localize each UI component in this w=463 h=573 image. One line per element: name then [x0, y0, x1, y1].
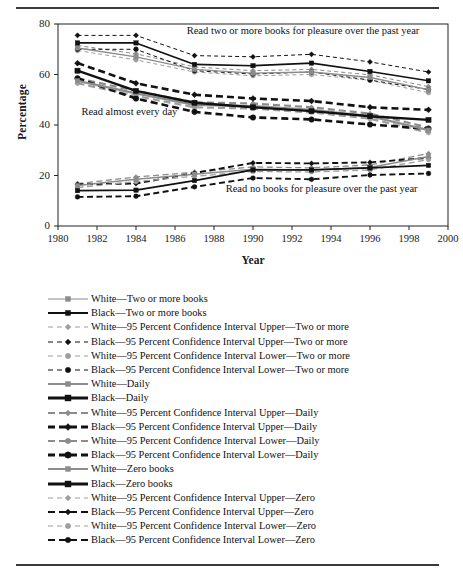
- data-point-circle: [65, 523, 70, 528]
- data-point-diamond: [192, 53, 197, 58]
- data-point-diamond: [65, 325, 71, 331]
- data-point-square: [250, 105, 255, 110]
- data-point-square: [66, 311, 71, 316]
- data-point-circle: [65, 538, 70, 543]
- legend-key-swatch: [45, 420, 91, 434]
- data-point-circle: [65, 438, 70, 443]
- data-point-diamond: [192, 92, 198, 98]
- plot-annotation-1: Read two or more books for pleasure over…: [187, 25, 420, 36]
- data-point-square: [251, 168, 255, 172]
- data-point-diamond: [426, 107, 432, 113]
- data-point-square: [251, 71, 255, 75]
- data-point-square: [65, 395, 71, 401]
- data-point-square: [368, 69, 372, 73]
- legend-item[interactable]: Black—Two or more books: [0, 306, 455, 320]
- legend-item[interactable]: Black—95 Percent Confidence Interval Low…: [0, 448, 455, 462]
- data-point-diamond: [75, 60, 81, 66]
- legend-item[interactable]: Black—95 Percent Confidence Interval Upp…: [0, 505, 455, 519]
- legend-item[interactable]: White—Two or more books: [0, 292, 455, 306]
- legend-item-label: White—95 Percent Confidence Interval Upp…: [91, 406, 318, 420]
- legend-item-label: White—95 Percent Confidence Interval Low…: [91, 519, 316, 533]
- legend-key-swatch: [45, 335, 91, 349]
- legend-item-label: Black—95 Percent Confidence Interval Low…: [91, 363, 349, 377]
- legend-item[interactable]: Black—Zero books: [0, 476, 455, 490]
- chart-legend: White—Two or more booksBlack—Two or more…: [0, 292, 455, 547]
- data-point-square: [309, 61, 313, 65]
- data-point-square: [426, 128, 430, 132]
- legend-item-label: Black—95 Percent Confidence Interval Upp…: [91, 335, 348, 349]
- data-point-diamond: [309, 52, 314, 57]
- legend-item[interactable]: Black—95 Percent Confidence Interval Low…: [0, 533, 455, 547]
- legend-item[interactable]: Black—95 Percent Confidence Interval Low…: [0, 363, 455, 377]
- data-point-circle: [65, 367, 70, 372]
- data-point-diamond: [367, 104, 373, 110]
- data-point-circle: [426, 171, 431, 176]
- data-point-circle: [367, 122, 373, 128]
- data-point-circle: [134, 194, 139, 199]
- data-point-diamond: [250, 54, 255, 59]
- legend-item[interactable]: Black—95 Percent Confidence Interval Upp…: [0, 335, 455, 349]
- legend-key-swatch: [45, 462, 91, 476]
- data-point-diamond: [367, 59, 372, 64]
- data-point-circle: [65, 452, 71, 458]
- data-point-square: [426, 117, 431, 122]
- data-point-square: [75, 183, 79, 187]
- legend-item-label: White—95 Percent Confidence Interval Upp…: [91, 320, 349, 334]
- data-point-square: [66, 297, 71, 302]
- legend-key-swatch: [45, 349, 91, 363]
- data-point-square: [309, 70, 313, 74]
- data-point-square: [309, 168, 313, 172]
- legend-item[interactable]: White—95 Percent Confidence Interval Upp…: [0, 491, 455, 505]
- legend-item[interactable]: White—Daily: [0, 377, 455, 391]
- legend-item-label: White—95 Percent Confidence Interval Low…: [91, 349, 350, 363]
- data-point-circle: [368, 173, 373, 178]
- legend-item[interactable]: White—95 Percent Confidence Interval Upp…: [0, 320, 455, 334]
- legend-item-label: Black—Zero books: [91, 477, 173, 491]
- legend-item-label: White—Daily: [91, 377, 150, 391]
- legend-key-swatch: [45, 434, 91, 448]
- legend-item[interactable]: White—95 Percent Confidence Interval Low…: [0, 519, 455, 533]
- legend-item-label: Black—95 Percent Confidence Interval Low…: [91, 448, 318, 462]
- data-point-circle: [309, 177, 314, 182]
- data-point-diamond: [309, 98, 315, 104]
- data-point-square: [66, 382, 71, 387]
- data-point-square: [368, 166, 372, 170]
- data-point-diamond: [65, 410, 71, 416]
- data-point-circle: [309, 117, 315, 123]
- legend-item[interactable]: White—Zero books: [0, 462, 455, 476]
- legend-item[interactable]: White—95 Percent Confidence Interval Low…: [0, 434, 455, 448]
- bottom-rule: [16, 564, 439, 566]
- data-point-square: [134, 41, 138, 45]
- legend-key-swatch: [45, 292, 91, 306]
- legend-key-swatch: [45, 391, 91, 405]
- chart-canvas: Read two or more books for pleasure over…: [0, 14, 455, 264]
- data-point-diamond: [65, 339, 71, 345]
- legend-item[interactable]: Black—Daily: [0, 391, 455, 405]
- legend-key-swatch: [45, 363, 91, 377]
- top-rule: [16, 7, 439, 9]
- data-point-diamond: [426, 69, 431, 74]
- legend-item-label: White—Zero books: [91, 462, 174, 476]
- data-point-square: [75, 188, 79, 192]
- plot-annotation-3: Read no books for pleasure over the past…: [226, 183, 418, 194]
- data-point-square: [134, 55, 138, 59]
- data-point-square: [66, 467, 71, 472]
- plot-annotation-2: Read almost every day: [81, 106, 178, 117]
- data-point-circle: [75, 195, 80, 200]
- legend-item-label: White—Two or more books: [91, 292, 208, 306]
- legend-item[interactable]: White—95 Percent Confidence Interval Upp…: [0, 406, 455, 420]
- legend-item[interactable]: Black—95 Percent Confidence Interval Upp…: [0, 420, 455, 434]
- legend-key-swatch: [45, 477, 91, 491]
- legend-item-label: Black—Daily: [91, 391, 149, 405]
- data-point-square: [367, 114, 372, 119]
- legend-key-swatch: [45, 448, 91, 462]
- legend-item[interactable]: White—95 Percent Confidence Interval Low…: [0, 349, 455, 363]
- legend-item-label: White—95 Percent Confidence Interval Low…: [91, 434, 320, 448]
- data-point-diamond: [250, 95, 256, 101]
- legend-item-label: Black—95 Percent Confidence Interval Upp…: [91, 505, 314, 519]
- legend-item-label: Black—Two or more books: [91, 306, 207, 320]
- data-point-square: [134, 177, 138, 181]
- legend-item-label: White—95 Percent Confidence Interval Upp…: [91, 491, 315, 505]
- data-point-square: [192, 172, 196, 176]
